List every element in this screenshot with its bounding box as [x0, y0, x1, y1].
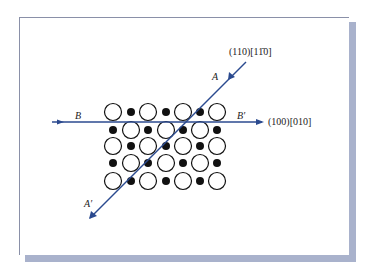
- small-atom: [144, 126, 152, 134]
- small-atom: [179, 159, 187, 167]
- small-atom: [196, 142, 204, 150]
- small-atom: [127, 177, 135, 185]
- arrowhead-b-icon: [57, 120, 64, 125]
- large-atom: [175, 104, 192, 121]
- large-atom: [192, 122, 209, 139]
- small-atom: [162, 108, 170, 116]
- large-atom: [158, 155, 175, 172]
- crystal-lattice: [105, 104, 226, 190]
- small-atom: [162, 177, 170, 185]
- small-atom: [196, 177, 204, 185]
- large-atom: [209, 104, 226, 121]
- label-b: B: [75, 110, 81, 121]
- small-atom: [109, 159, 117, 167]
- label-b-prime: B′: [237, 110, 245, 121]
- small-atom: [213, 126, 221, 134]
- small-atom: [127, 142, 135, 150]
- slip-system-diagram: [0, 0, 371, 270]
- small-atom: [196, 108, 204, 116]
- small-atom: [109, 126, 117, 134]
- large-atom: [105, 173, 122, 190]
- large-atom: [192, 155, 209, 172]
- large-atom: [175, 173, 192, 190]
- large-atom: [123, 122, 140, 139]
- large-atom: [140, 138, 157, 155]
- small-atom: [127, 108, 135, 116]
- large-atom: [123, 155, 140, 172]
- large-atom: [105, 138, 122, 155]
- large-atom: [209, 173, 226, 190]
- horizontal-slip-system-label: (100)[010]: [268, 116, 311, 127]
- arrowhead-b-prime-icon: [256, 119, 264, 125]
- large-atom: [209, 138, 226, 155]
- large-atom: [140, 104, 157, 121]
- small-atom: [213, 159, 221, 167]
- large-atom: [175, 138, 192, 155]
- large-atom: [140, 173, 157, 190]
- label-a-prime: A′: [84, 198, 92, 209]
- diagonal-slip-system-label: (110)[11̄0]: [229, 46, 272, 57]
- slip-lines: [52, 62, 264, 219]
- label-a: A: [212, 71, 218, 82]
- large-atom: [105, 104, 122, 121]
- small-atom: [162, 142, 170, 150]
